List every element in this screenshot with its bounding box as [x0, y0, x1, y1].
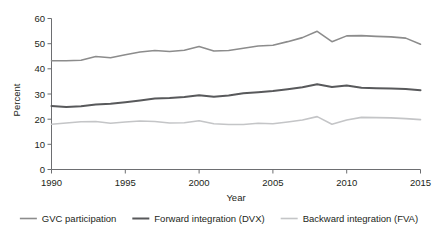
line-chart-svg: Percent 60 50 40 30 20 10 0 — [0, 0, 438, 240]
y-tick-0: 0 — [40, 164, 45, 175]
y-tick-30: 30 — [34, 89, 45, 100]
x-tick-2015: 2015 — [410, 177, 431, 188]
y-axis-title: Percent — [11, 83, 22, 116]
chart-figure: Percent 60 50 40 30 20 10 0 — [0, 0, 438, 240]
x-tick-2005: 2005 — [262, 177, 283, 188]
series-line-0 — [52, 31, 421, 60]
chart-legend: GVC participationForward integration (DV… — [20, 213, 418, 224]
x-tick-1995: 1995 — [115, 177, 136, 188]
series-line-2 — [52, 117, 421, 125]
legend-label-0: GVC participation — [42, 213, 116, 224]
x-tick-2010: 2010 — [336, 177, 357, 188]
y-tick-60: 60 — [34, 13, 45, 24]
legend-label-2: Backward integration (FVA) — [303, 213, 418, 224]
y-axis-tick-labels: 60 50 40 30 20 10 0 — [34, 13, 45, 175]
series-line-1 — [52, 84, 421, 107]
y-tick-50: 50 — [34, 38, 45, 49]
y-tick-20: 20 — [34, 114, 45, 125]
x-axis-title: Year — [226, 192, 245, 203]
x-tick-2000: 2000 — [189, 177, 210, 188]
y-tick-40: 40 — [34, 63, 45, 74]
y-tick-10: 10 — [34, 139, 45, 150]
x-axis-line — [52, 170, 421, 174]
legend-label-1: Forward integration (DVX) — [154, 213, 264, 224]
x-axis-tick-labels: 1990 1995 2000 2005 2010 2015 — [41, 177, 431, 188]
series-layer — [52, 31, 421, 124]
x-tick-1990: 1990 — [41, 177, 62, 188]
y-axis-line — [48, 19, 52, 170]
